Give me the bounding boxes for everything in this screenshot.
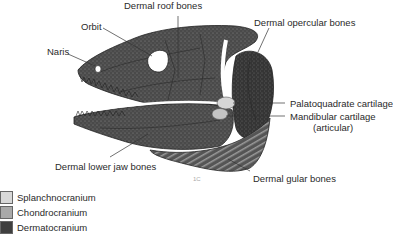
swatch-medium-icon xyxy=(0,206,13,219)
legend-label: Dermatocranium xyxy=(17,222,87,233)
label-dermal-roof-bones: Dermal roof bones xyxy=(124,0,202,11)
label-dermal-opercular-bones: Dermal opercular bones xyxy=(254,17,355,28)
corner-mark: 1C xyxy=(193,176,201,182)
legend-label: Splanchnocranium xyxy=(17,192,96,203)
label-mandibular-cartilage-sub: (articular) xyxy=(313,122,353,133)
label-naris: Naris xyxy=(47,46,69,57)
palatoquadrate-shape xyxy=(217,97,235,109)
legend-label: Chondrocranium xyxy=(17,207,87,218)
label-dermal-gular-bones: Dermal gular bones xyxy=(253,173,336,184)
legend-item-dermatocranium: Dermatocranium xyxy=(0,220,96,235)
legend-item-chondrocranium: Chondrocranium xyxy=(0,205,96,220)
mandibular-cartilage-shape xyxy=(212,109,228,120)
legend: Splanchnocranium Chondrocranium Dermatoc… xyxy=(0,190,96,235)
label-mandibular-cartilage: Mandibular cartilage xyxy=(290,111,376,122)
swatch-dark-icon xyxy=(0,221,13,234)
legend-item-splanchnocranium: Splanchnocranium xyxy=(0,190,96,205)
naris-shape xyxy=(95,66,101,73)
label-orbit: Orbit xyxy=(81,21,102,32)
label-dermal-lower-jaw-bones: Dermal lower jaw bones xyxy=(55,161,156,172)
swatch-light-icon xyxy=(0,191,13,204)
label-palatoquadrate-cartilage: Palatoquadrate cartilage xyxy=(290,98,393,109)
